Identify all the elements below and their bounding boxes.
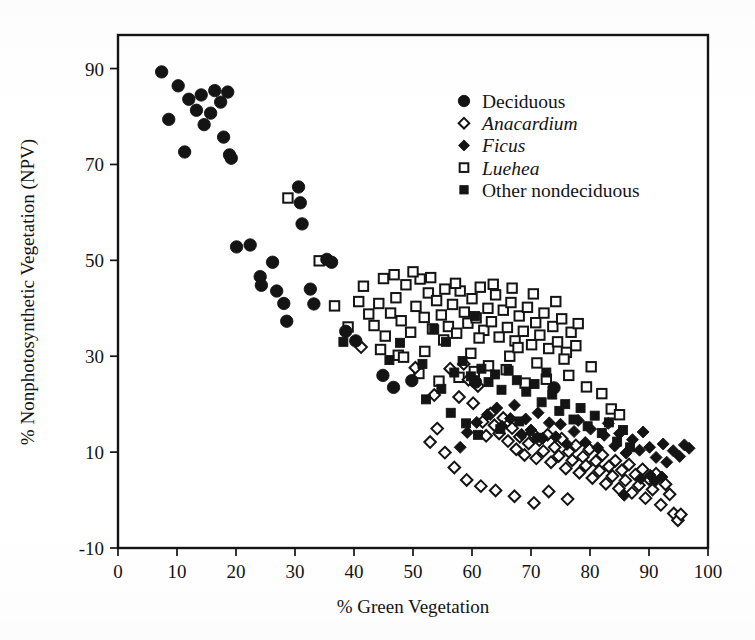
y-tick-label: 30 [85, 346, 104, 367]
data-point [449, 462, 461, 474]
legend-label: Luehea [481, 158, 540, 179]
data-point [374, 299, 383, 308]
x-tick-label: 10 [168, 561, 187, 582]
data-point [661, 456, 673, 468]
data-point [473, 430, 482, 439]
data-point [406, 328, 415, 337]
data-point [576, 404, 585, 413]
data-point [537, 398, 546, 407]
data-point [574, 319, 583, 328]
data-point [244, 239, 256, 251]
data-point [508, 399, 520, 411]
data-point [543, 417, 555, 429]
data-point [420, 347, 429, 356]
data-point [561, 400, 570, 409]
data-point [477, 364, 486, 373]
data-point [266, 256, 278, 268]
data-point [559, 354, 568, 363]
data-point [487, 317, 496, 326]
data-point [597, 389, 606, 398]
data-point [539, 308, 548, 317]
data-point [379, 274, 388, 283]
data-point [523, 303, 532, 312]
data-point [292, 181, 304, 193]
data-point [364, 309, 373, 318]
data-point [190, 104, 202, 116]
data-point [432, 296, 441, 305]
data-point [330, 301, 339, 310]
data-point [461, 474, 473, 486]
data-point [439, 447, 451, 459]
x-tick-label: 20 [227, 561, 246, 582]
legend-marker-filled-diamond [458, 140, 469, 151]
data-point [582, 382, 591, 391]
data-point [657, 438, 669, 450]
data-point [640, 492, 652, 504]
data-point [637, 426, 649, 438]
data-point [454, 441, 466, 453]
figure-scatter-plot: 0102030405060708090100 -101030507090 Dec… [0, 0, 755, 640]
data-point [507, 283, 516, 292]
data-point [527, 340, 536, 349]
data-point [172, 80, 184, 92]
data-point [420, 313, 429, 322]
x-tick-label: 70 [522, 561, 541, 582]
data-point [195, 89, 207, 101]
data-point [470, 311, 479, 320]
x-tick-label: 0 [113, 561, 123, 582]
data-point [458, 357, 467, 366]
data-point [401, 280, 410, 289]
data-point [426, 273, 435, 282]
data-point [644, 441, 656, 453]
y-axis-ticks: -101030507090 [79, 59, 118, 559]
y-tick-label: -10 [79, 538, 104, 559]
data-point [650, 451, 662, 463]
data-point [553, 337, 562, 346]
data-point [568, 425, 580, 437]
data-point [155, 66, 167, 78]
legend-marker-filled-square [460, 186, 468, 194]
data-point [325, 256, 337, 268]
data-point [183, 93, 195, 105]
data-point [476, 282, 485, 291]
data-point [504, 366, 513, 375]
data-point [450, 368, 459, 377]
data-point [520, 378, 529, 387]
data-point [562, 493, 574, 505]
data-point [590, 411, 599, 420]
data-point [418, 359, 427, 368]
data-point [586, 362, 595, 371]
data-point [354, 297, 363, 306]
series-luehea [283, 193, 624, 419]
x-tick-label: 90 [640, 561, 659, 582]
data-point [271, 285, 283, 297]
data-point [503, 323, 512, 332]
legend-label: Deciduous [482, 91, 565, 112]
data-point [369, 321, 378, 330]
data-point [483, 304, 492, 313]
data-point [531, 318, 540, 327]
data-point [502, 435, 514, 447]
data-point [557, 314, 566, 323]
data-point [513, 343, 522, 352]
data-point [198, 118, 210, 130]
legend-label: Other nondeciduous [482, 180, 640, 201]
data-point [490, 485, 502, 497]
data-point [440, 284, 449, 293]
data-point [448, 300, 457, 309]
x-tick-label: 60 [463, 561, 482, 582]
data-point [512, 376, 521, 385]
y-tick-label: 10 [85, 442, 104, 463]
data-point [494, 332, 503, 341]
data-point [283, 193, 292, 202]
data-point [442, 337, 451, 346]
data-point [466, 349, 475, 358]
data-point [391, 293, 400, 302]
data-point [296, 218, 308, 230]
x-tick-label: 50 [404, 561, 423, 582]
data-point [528, 497, 540, 509]
data-point [551, 297, 560, 306]
data-point [209, 84, 221, 96]
chart-legend: DeciduousAnacardiumFicusLueheaOther nond… [458, 91, 639, 201]
data-point [467, 397, 479, 409]
